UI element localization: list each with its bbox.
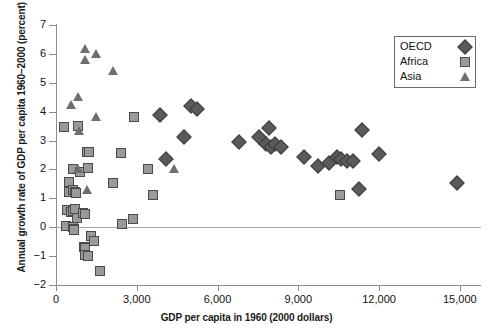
x-axis-line — [56, 285, 481, 286]
x-tick-mark — [379, 285, 380, 291]
x-tick-mark — [218, 285, 219, 291]
data-point-africa — [84, 147, 94, 157]
y-tick-mark — [49, 169, 56, 170]
y-tick-mark — [49, 83, 56, 84]
x-tick-label: 0 — [24, 294, 88, 305]
data-point-asia — [80, 44, 90, 53]
data-point-asia — [91, 50, 101, 59]
y-tick-label: 2 — [20, 163, 46, 174]
legend-label: OECD — [400, 41, 432, 52]
legend-item-africa: Africa — [400, 54, 471, 69]
x-tick-label: 9,000 — [266, 294, 330, 305]
legend-label: Africa — [400, 56, 428, 67]
data-point-africa — [335, 190, 345, 200]
data-point-africa — [117, 219, 127, 229]
x-tick-mark — [460, 285, 461, 291]
y-tick-mark — [49, 198, 56, 199]
legend-item-oecd: OECD — [400, 39, 471, 54]
x-tick-label: 15,000 — [428, 294, 492, 305]
data-point-africa — [69, 225, 79, 235]
legend-label: Asia — [400, 71, 421, 82]
data-point-africa — [128, 214, 138, 224]
diamond-marker-icon — [459, 41, 471, 53]
y-tick-mark — [49, 112, 56, 113]
data-point-asia — [108, 66, 118, 75]
data-point-africa — [59, 122, 69, 132]
y-tick-mark — [49, 54, 56, 55]
y-tick-mark — [49, 227, 56, 228]
legend-item-asia: Asia — [400, 69, 471, 84]
x-tick-mark — [56, 285, 57, 291]
square-marker-icon — [459, 56, 471, 68]
data-point-asia — [74, 126, 84, 135]
triangle-marker-icon — [459, 71, 471, 83]
y-tick-label: 0 — [20, 221, 46, 232]
data-point-africa — [116, 148, 126, 158]
x-tick-mark — [137, 285, 138, 291]
scatter-chart: Annual growth rate of GDP per capita 196… — [0, 0, 493, 331]
data-point-asia — [169, 164, 179, 173]
y-tick-label: 6 — [20, 48, 46, 59]
chart-legend: OECDAfricaAsia — [394, 36, 476, 88]
x-tick-label: 12,000 — [347, 294, 411, 305]
data-point-africa — [129, 112, 139, 122]
data-point-asia — [66, 100, 76, 109]
data-point-africa — [95, 266, 105, 276]
data-point-africa — [80, 209, 90, 219]
y-tick-mark — [49, 256, 56, 257]
y-tick-label: −1 — [20, 250, 46, 261]
data-point-africa — [89, 236, 99, 246]
data-point-asia — [73, 164, 83, 173]
y-tick-mark — [49, 25, 56, 26]
x-axis-label: GDP per capita in 1960 (2000 dollars) — [0, 312, 493, 323]
y-tick-mark — [49, 141, 56, 142]
y-tick-label: −2 — [20, 279, 46, 290]
data-point-asia — [80, 55, 90, 64]
data-point-africa — [83, 251, 93, 261]
data-point-africa — [71, 188, 81, 198]
y-tick-label: 3 — [20, 135, 46, 146]
data-point-asia — [91, 112, 101, 121]
data-point-africa — [83, 163, 93, 173]
y-axis-label: Annual growth rate of GDP per capita 196… — [16, 23, 27, 273]
data-point-africa — [143, 164, 153, 174]
x-tick-label: 6,000 — [186, 294, 250, 305]
x-tick-label: 3,000 — [105, 294, 169, 305]
y-tick-label: 7 — [20, 19, 46, 30]
x-tick-mark — [298, 285, 299, 291]
y-tick-label: 4 — [20, 106, 46, 117]
y-tick-label: 5 — [20, 77, 46, 88]
data-point-africa — [108, 178, 118, 188]
y-tick-mark — [49, 285, 56, 286]
y-tick-label: 1 — [20, 192, 46, 203]
data-point-africa — [148, 190, 158, 200]
data-point-asia — [82, 185, 92, 194]
data-point-asia — [73, 92, 83, 101]
